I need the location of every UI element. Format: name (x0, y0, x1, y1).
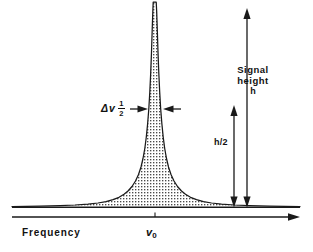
linewidth-symbol: Δv (101, 102, 116, 114)
spectrum-peak (12, 2, 300, 207)
linewidth-fraction-denominator: 2 (118, 109, 124, 117)
peak-fill (12, 2, 300, 207)
signal-height-arrow (243, 8, 250, 208)
half-height-arrow (230, 105, 237, 208)
linewidth-fraction: 1 2 (118, 100, 125, 117)
frequency-axis-label: Frequency (22, 227, 81, 239)
frequency-axis-arrowhead (288, 213, 300, 221)
signal-height-arrowhead-up (243, 8, 250, 19)
nu0-subscript: 0 (152, 231, 156, 240)
figure-canvas (0, 0, 313, 252)
frequency-axis (12, 213, 300, 221)
half-height-label: h/2 (214, 137, 228, 148)
linewidth-fraction-numerator: 1 (118, 100, 124, 108)
linewidth-label: Δv 1 2 (101, 100, 125, 117)
half-height-arrowhead-up (230, 105, 237, 116)
signal-height-label-line3: h (231, 86, 275, 97)
signal-height-label-line2: height (231, 75, 275, 86)
lorentzian-lineshape-figure: Frequency v0 Signal height h h/2 Δv 1 2 (0, 0, 313, 252)
signal-height-label: Signal height h (231, 64, 275, 97)
linewidth-arrowhead-right (163, 105, 174, 112)
nu0-axis-label: v0 (146, 226, 157, 240)
signal-height-label-line1: Signal (231, 64, 275, 75)
linewidth-arrowhead-left (138, 105, 149, 112)
